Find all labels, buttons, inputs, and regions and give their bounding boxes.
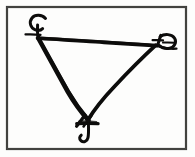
sigil-drawing-canvas xyxy=(0,0,195,157)
sigil-figure: Inverted triangle sigil with calligraphi… xyxy=(0,0,195,157)
